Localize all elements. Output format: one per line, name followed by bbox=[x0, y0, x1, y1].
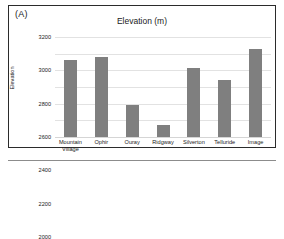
bar-slot bbox=[240, 37, 271, 137]
x-axis-tick-label: Image bbox=[240, 139, 271, 153]
x-axis-tick-label: Telluride bbox=[209, 139, 240, 153]
bar bbox=[218, 80, 231, 138]
x-axis-tick-labels: Mountain VillageOphirOurayRidgwaySilvert… bbox=[55, 139, 271, 153]
bar bbox=[157, 125, 170, 138]
bar-slot bbox=[86, 37, 117, 137]
x-axis-tick-label: Ophir bbox=[86, 139, 117, 153]
chart-title: Elevation (m) bbox=[9, 16, 275, 26]
bar-slot bbox=[178, 37, 209, 137]
y-axis-tick-label: 2400 bbox=[39, 167, 51, 169]
bar-slot bbox=[117, 37, 148, 137]
bar-slot bbox=[209, 37, 240, 137]
bar bbox=[126, 105, 139, 138]
plot-area: 2000220024002600280030003200 bbox=[55, 37, 271, 137]
chart-panel: (A) Elevation (m) Elevation 200022002400… bbox=[8, 5, 276, 148]
bar bbox=[95, 57, 108, 137]
x-axis-tick-label: Ouray bbox=[117, 139, 148, 153]
bar-slot bbox=[55, 37, 86, 137]
figure-panel-a: (A) Elevation (m) Elevation 200022002400… bbox=[0, 0, 284, 169]
bar-slot bbox=[148, 37, 179, 137]
y-axis-label: Elevation bbox=[9, 79, 16, 90]
x-axis-tick-label: Mountain Village bbox=[55, 139, 86, 153]
y-axis-tick-label: 3000 bbox=[39, 67, 51, 73]
bar bbox=[249, 49, 262, 137]
x-axis-tick-label: Silverton bbox=[178, 139, 209, 153]
y-axis-tick-label: 2600 bbox=[39, 134, 51, 140]
y-axis-tick-label: 2800 bbox=[39, 101, 51, 107]
bar bbox=[64, 60, 77, 137]
footer-rule bbox=[8, 160, 276, 161]
bar bbox=[187, 68, 200, 137]
y-axis-tick-label: 3200 bbox=[39, 34, 51, 40]
x-axis-tick-label: Ridgway bbox=[148, 139, 179, 153]
gridline: 2000 bbox=[55, 137, 271, 138]
bar-series bbox=[55, 37, 271, 137]
